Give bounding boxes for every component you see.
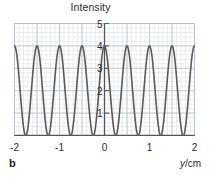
x-tick-label: 2	[192, 142, 198, 153]
chart-title: Intensity	[0, 1, 209, 13]
x-axis-title: y/cm	[180, 158, 201, 170]
y-tick-label: 1	[89, 108, 103, 119]
intensity-figure: Intensity -2-1012 12345 b y/cm	[0, 0, 209, 178]
y-tick-label: 4	[89, 40, 103, 51]
chart-title-text: Intensity	[70, 1, 110, 13]
y-tick-label: 5	[89, 18, 103, 29]
x-tick-label: -1	[55, 142, 64, 153]
x-axis-unit: /cm	[185, 158, 201, 169]
x-tick-label: 0	[102, 142, 108, 153]
plot-area	[14, 23, 195, 136]
x-tick-label: 1	[147, 142, 153, 153]
panel-label: b	[9, 157, 16, 169]
intensity-plot-svg	[14, 23, 195, 136]
y-tick-label: 3	[89, 63, 103, 74]
x-tick-label: -2	[10, 142, 19, 153]
y-tick-label: 2	[89, 85, 103, 96]
